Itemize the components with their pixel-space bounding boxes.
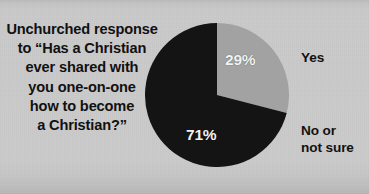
pie-chart: 29% 71% — [145, 23, 289, 167]
pie-value-label-no-or-not-sure: 71% — [186, 126, 216, 144]
pie-category-label-no-or-not-sure: No or not sure — [301, 122, 354, 156]
figure-title: Unchurched response to “Has a Christian … — [6, 20, 158, 135]
pie-category-label-yes: Yes — [301, 49, 324, 66]
pie-value-label-yes: 29% — [225, 51, 255, 69]
figure-canvas: Unchurched response to “Has a Christian … — [0, 0, 369, 194]
pie-chart-svg — [145, 23, 289, 167]
